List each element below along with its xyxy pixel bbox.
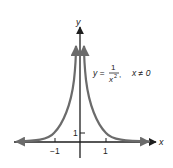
equation-comma: , <box>119 70 121 79</box>
graph-figure: y x −1 1 1 y = 1 x 2 , x ≠ 0 <box>0 0 173 168</box>
equation-exponent: 2 <box>114 73 117 79</box>
equation-condition: x ≠ 0 <box>131 68 151 78</box>
curve-right-branch <box>84 46 150 142</box>
y-axis-label: y <box>75 17 81 27</box>
x-axis-label: x <box>158 137 164 147</box>
equation-numerator: 1 <box>111 63 116 72</box>
x-tick-label-1: 1 <box>103 146 108 156</box>
equation-label: y = 1 x 2 , x ≠ 0 <box>92 63 151 84</box>
x-tick-label-neg1: −1 <box>50 146 60 156</box>
y-tick-label-1: 1 <box>73 128 78 138</box>
equation-lhs: y = <box>92 68 105 78</box>
curve-left-branch <box>18 46 76 142</box>
